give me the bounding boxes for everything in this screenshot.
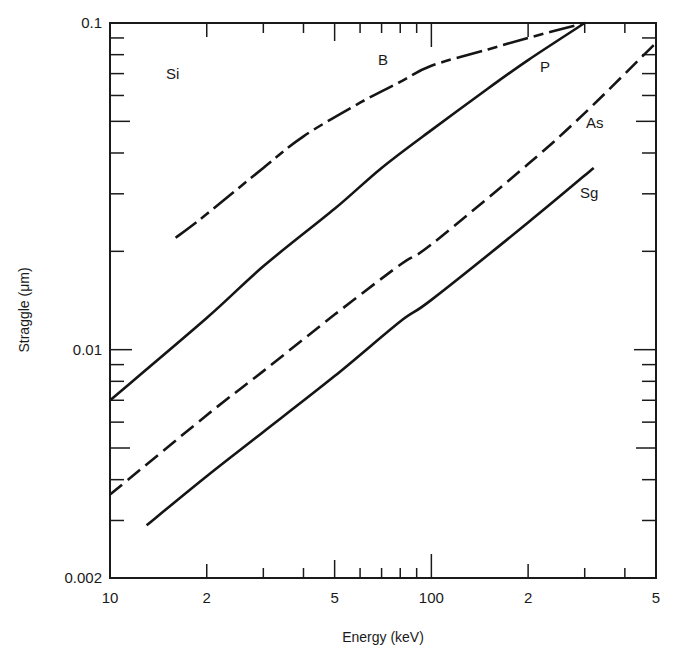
y-tick-label: 0.1 [81, 14, 102, 31]
series-label-p: P [540, 58, 550, 75]
x-tick-label: 10 [102, 589, 119, 606]
curve-sg [147, 168, 594, 525]
x-tick-label: 2 [524, 589, 532, 606]
y-axis-label: Straggle (μm) [16, 267, 32, 352]
axis-ticks [110, 23, 656, 578]
series-label-b: B [378, 51, 388, 68]
curve-as [110, 43, 656, 495]
series-label-sg: Sg [580, 184, 598, 201]
straggle-vs-energy-chart: 1025100250.10.010.002 BPAsSg Energy (keV… [0, 0, 681, 665]
x-tick-label: 100 [419, 589, 444, 606]
plot-frame [110, 23, 656, 578]
x-tick-label: 2 [203, 589, 211, 606]
y-tick-label: 0.01 [73, 341, 102, 358]
y-tick-label: 0.002 [64, 569, 102, 586]
material-label: Si [166, 65, 179, 82]
data-curves [110, 23, 656, 525]
series-label-as: As [586, 114, 604, 131]
x-tick-label: 5 [652, 589, 660, 606]
x-axis-label: Energy (keV) [342, 629, 424, 645]
curve-p [110, 23, 585, 400]
x-tick-label: 5 [330, 589, 338, 606]
plot-border [110, 23, 656, 578]
